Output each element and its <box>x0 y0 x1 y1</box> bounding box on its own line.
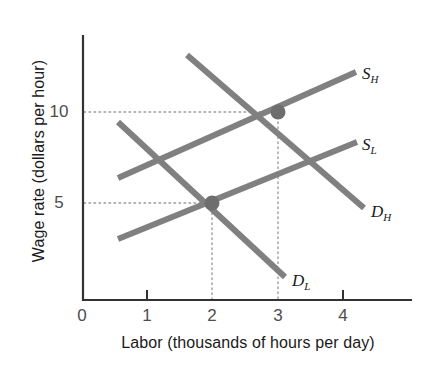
curve-label-supply-low: SL <box>362 135 377 156</box>
y-tick-label-5: 5 <box>44 193 74 213</box>
curve-label-supply-high-sub: H <box>371 73 379 85</box>
y-tick-label-10: 10 <box>44 102 74 122</box>
equilibrium-marker-low <box>205 196 220 211</box>
x-axis-ticks <box>147 290 343 300</box>
x-tick-label-1: 1 <box>132 306 162 326</box>
curve-supply-high <box>118 72 356 178</box>
x-tick-label-2: 2 <box>197 306 227 326</box>
labor-market-chart: Wage rate (dollars per hour) Labor (thou… <box>0 0 433 370</box>
x-tick-label-0: 0 <box>67 306 97 326</box>
x-tick-label-4: 4 <box>328 306 358 326</box>
curve-demand-low <box>118 122 285 277</box>
y-axis-title: Wage rate (dollars per hour) <box>30 46 48 276</box>
curve-label-demand-low: DL <box>292 271 310 292</box>
x-tick-label-3: 3 <box>263 306 293 326</box>
curve-label-demand-high: DH <box>371 202 391 223</box>
x-axis-title: Labor (thousands of hours per day) <box>78 334 418 352</box>
curve-label-demand-low-sub: L <box>304 280 310 292</box>
curve-label-supply-low-sub: L <box>371 144 377 156</box>
equilibrium-marker-high <box>271 105 286 120</box>
guide-lines <box>84 112 278 300</box>
curve-label-supply-low-main: S <box>362 135 371 154</box>
curve-label-supply-high: SH <box>362 64 378 85</box>
curve-label-demand-high-main: D <box>371 202 383 221</box>
curve-label-demand-high-sub: H <box>383 211 391 223</box>
curve-label-supply-high-main: S <box>362 64 371 83</box>
curve-label-demand-low-main: D <box>292 271 304 290</box>
